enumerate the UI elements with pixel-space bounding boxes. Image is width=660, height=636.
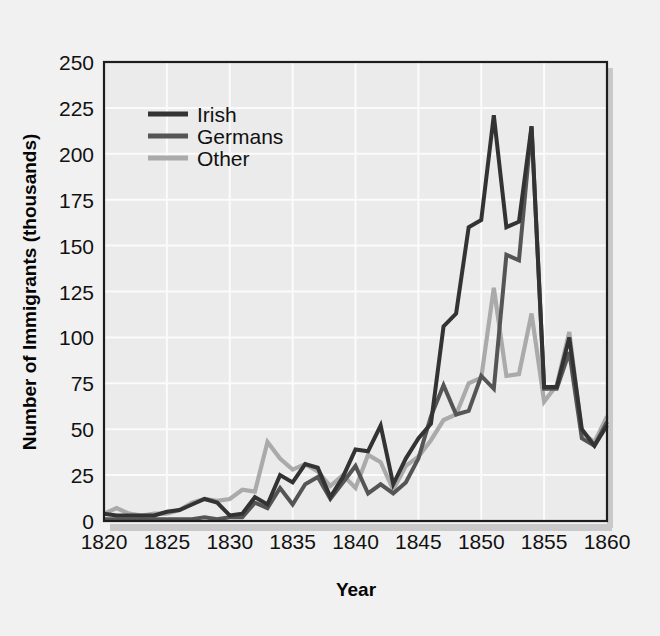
y-tick-label: 100 — [59, 326, 94, 349]
x-tick-label: 1855 — [521, 530, 568, 553]
y-tick-label: 75 — [71, 372, 94, 395]
y-tick-label: 225 — [59, 97, 94, 120]
chart-figure: 0255075100125150175200225250 18201825183… — [0, 0, 660, 636]
immigration-line-chart: 0255075100125150175200225250 18201825183… — [0, 0, 660, 636]
legend-label-other: Other — [197, 147, 250, 170]
y-tick-label: 150 — [59, 235, 94, 258]
x-tick-label: 1830 — [206, 530, 253, 553]
y-tick-label: 125 — [59, 281, 94, 304]
x-axis-title: Year — [336, 579, 377, 600]
x-tick-label: 1860 — [584, 530, 631, 553]
y-tick-label: 50 — [71, 418, 94, 441]
y-axis-title: Number of Immigrants (thousands) — [19, 134, 40, 451]
x-tick-label: 1850 — [458, 530, 505, 553]
x-tick-label: 1825 — [144, 530, 191, 553]
x-tick-label: 1840 — [332, 530, 379, 553]
y-tick-label: 25 — [71, 464, 94, 487]
legend-label-irish: Irish — [197, 103, 237, 126]
x-axis-tick-labels: 182018251830183518401845185018551860 — [81, 530, 631, 553]
y-tick-label: 175 — [59, 189, 94, 212]
x-tick-label: 1835 — [269, 530, 316, 553]
x-tick-label: 1845 — [395, 530, 442, 553]
y-tick-label: 250 — [59, 51, 94, 74]
y-tick-label: 200 — [59, 143, 94, 166]
x-tick-label: 1820 — [81, 530, 128, 553]
legend-label-germans: Germans — [197, 125, 283, 148]
